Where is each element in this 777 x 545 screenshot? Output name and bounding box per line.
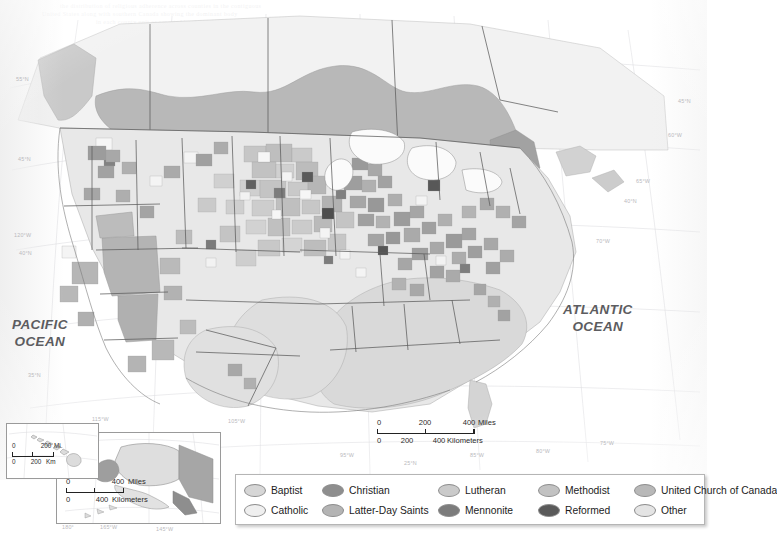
legend-swatch-lutheran — [438, 484, 460, 497]
united-states-region — [58, 128, 576, 428]
graticule-label-inset-5: 180° — [62, 524, 74, 530]
alaska-scale-bar: 0 400 Miles 0 400 Kilometers — [66, 477, 156, 509]
graticule-label-inset-0: 115°W — [92, 416, 109, 422]
legend-item-other[interactable]: Other — [634, 500, 777, 520]
graticule-label-right-1: 60°W — [668, 132, 682, 138]
legend-item-catholic[interactable]: Catholic — [244, 500, 322, 520]
graticule-label-bottom-0: 105°W — [228, 418, 245, 424]
legend-label-methodist: Methodist — [565, 485, 610, 496]
main-km-tick-1: 200 — [401, 436, 414, 445]
graticule-label-right-0: 45°N — [678, 98, 691, 104]
main-km-unit: Kilometers — [447, 436, 483, 445]
hawaii-km-unit: Km — [46, 458, 56, 465]
legend-label-other: Other — [661, 505, 687, 516]
alaska-miles-unit: Miles — [128, 477, 146, 486]
hawaii-miles-tick-0: 0 — [12, 442, 16, 449]
legend-item-mennonite[interactable]: Mennonite — [438, 500, 538, 520]
legend-item-lutheran[interactable]: Lutheran — [438, 480, 538, 500]
hawaii-scale-bar: 0 200 Mi. 0 200 Km — [12, 442, 74, 470]
main-miles-tick-0: 0 — [377, 418, 381, 427]
graticule-label-bottom-4: 80°W — [536, 448, 550, 454]
hawaii-miles-tick-1: 200 — [41, 442, 52, 449]
main-scale-bar: 0 200 400 Miles 0 200 400 Kilometers — [377, 418, 482, 452]
graticule-label-left-1: 45°N — [18, 156, 31, 162]
legend-label-reformed: Reformed — [565, 505, 610, 516]
graticule-label-inset-3: 165°W — [100, 524, 117, 530]
legend-item-latter-day-saints[interactable]: Latter-Day Saints — [322, 500, 438, 520]
legend-label-latter-day-saints: Latter-Day Saints — [349, 505, 429, 516]
graticule-label-left-2: 120°W — [14, 232, 31, 238]
graticule-label-left-0: 55°N — [16, 76, 29, 82]
legend-swatch-united-church-of-canada — [634, 484, 656, 497]
graticule-label-right-2: 65°W — [636, 178, 650, 184]
legend-swatch-latter-day-saints — [322, 504, 344, 517]
main-miles-unit: Miles — [478, 418, 496, 427]
legend-grid: Baptist Christian Lutheran Methodist Uni… — [244, 480, 700, 521]
main-miles-tick-1: 200 — [419, 418, 432, 427]
graticule-label-bottom-3: 85°W — [470, 452, 484, 458]
main-km-tick-0: 0 — [377, 436, 381, 445]
graticule-label-bottom-2: 25°N — [404, 460, 417, 466]
legend-label-lutheran: Lutheran — [465, 485, 506, 496]
legend-swatch-reformed — [538, 504, 560, 517]
pacific-ocean-label: PACIFIC OCEAN — [12, 316, 68, 350]
alaska-km-tick-0: 0 — [66, 495, 70, 504]
hawaii-miles-unit: Mi. — [54, 442, 63, 449]
graticule-label-left-3: 40°N — [19, 250, 32, 256]
alaska-miles-tick-1: 400 — [112, 477, 125, 486]
legend-item-christian[interactable]: Christian — [322, 480, 438, 500]
legend-swatch-baptist — [244, 484, 266, 497]
legend-swatch-mennonite — [438, 504, 460, 517]
main-km-tick-2: 400 — [433, 436, 446, 445]
legend-label-united-church-of-canada: United Church of Canada — [661, 485, 777, 496]
legend-label-baptist: Baptist — [271, 485, 302, 496]
alaska-km-tick-1: 400 — [96, 495, 109, 504]
legend-label-mennonite: Mennonite — [465, 505, 513, 516]
legend-label-christian: Christian — [349, 485, 390, 496]
legend-swatch-christian — [322, 484, 344, 497]
legend-label-catholic: Catholic — [271, 505, 308, 516]
main-miles-tick-2: 400 — [463, 418, 476, 427]
legend-item-baptist[interactable]: Baptist — [244, 480, 322, 500]
legend-item-united-church-of-canada[interactable]: United Church of Canada — [634, 480, 777, 500]
legend-item-reformed[interactable]: Reformed — [538, 500, 634, 520]
graticule-label-right-4: 70°W — [596, 238, 610, 244]
legend-swatch-other — [634, 504, 656, 517]
graticule-label-inset-4: 145°W — [156, 526, 173, 532]
atlantic-ocean-label: ATLANTIC OCEAN — [563, 301, 633, 335]
graticule-label-bottom-5: 75°W — [600, 440, 614, 446]
legend-swatch-methodist — [538, 484, 560, 497]
hawaii-km-tick-0: 0 — [12, 458, 16, 465]
graticule-label-left-4: 35°N — [28, 372, 41, 378]
alaska-km-unit: Kilometers — [112, 495, 148, 504]
legend-swatch-catholic — [244, 504, 266, 517]
map-legend: Baptist Christian Lutheran Methodist Uni… — [235, 474, 705, 525]
legend-item-methodist[interactable]: Methodist — [538, 480, 634, 500]
hawaii-km-tick-1: 200 — [31, 458, 42, 465]
graticule-label-bottom-1: 95°W — [340, 452, 354, 458]
hawaii-inset: 0 200 Mi. 0 200 Km — [6, 423, 99, 479]
graticule-label-right-3: 40°N — [624, 198, 637, 204]
